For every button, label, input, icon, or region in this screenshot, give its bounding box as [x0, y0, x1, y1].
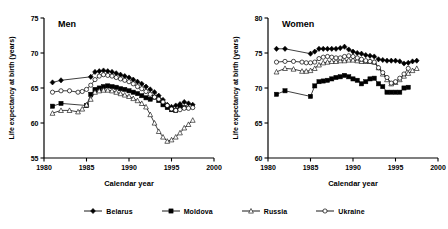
data-point [414, 58, 419, 63]
data-point [364, 80, 368, 84]
data-point [50, 80, 55, 85]
data-point [135, 79, 140, 84]
data-point [174, 108, 178, 112]
data-point [308, 51, 313, 56]
data-point [59, 101, 63, 105]
panel-title: Men [58, 19, 76, 29]
data-point [406, 66, 410, 70]
data-point [50, 104, 54, 108]
x-axis-title: Calendar year [328, 179, 378, 188]
legend-label: Russia [264, 208, 288, 215]
data-point [139, 81, 144, 86]
data-point [313, 60, 317, 64]
data-point [338, 75, 342, 79]
y-axis-title: Life expectancy at birth (years) [8, 36, 16, 139]
data-point [135, 85, 139, 89]
data-point [76, 90, 80, 94]
data-point [393, 80, 397, 84]
data-point [347, 75, 351, 79]
data-point [393, 90, 397, 94]
data-point [169, 137, 174, 142]
y-axis-title: Life expectancy at birth (years) [232, 36, 240, 139]
y-axis-tick-label: 65 [31, 85, 39, 92]
plot-area: 606570758019801985199019952000Calendar y… [232, 15, 446, 188]
data-point [274, 60, 278, 64]
data-point [144, 96, 148, 100]
data-point [402, 72, 406, 76]
y-axis-tick-label: 60 [255, 155, 263, 162]
legend-symbol [169, 209, 173, 213]
data-point [389, 90, 393, 94]
data-point [157, 97, 161, 101]
y-axis-tick-label: 70 [255, 85, 263, 92]
data-point [363, 53, 368, 58]
data-point [283, 46, 288, 51]
legend-marker-open-circle [315, 206, 335, 216]
series-moldova [50, 84, 186, 113]
data-point [402, 86, 406, 90]
data-point [330, 55, 334, 59]
chart-panel-women: 606570758019801985199019952000Calendar y… [224, 0, 448, 200]
data-point [355, 78, 359, 82]
data-point [127, 89, 131, 93]
data-point [161, 100, 165, 104]
data-point [135, 92, 139, 96]
data-point [325, 54, 329, 58]
data-point [274, 69, 279, 74]
data-point [152, 121, 157, 126]
data-point [186, 106, 190, 110]
legend-label: Belarus [106, 208, 132, 215]
data-point [321, 55, 325, 59]
x-axis-tick-label: 1980 [36, 164, 52, 171]
x-axis-tick-label: 1995 [388, 164, 404, 171]
data-point [283, 89, 287, 93]
data-point [67, 89, 71, 93]
legend-marker-open-triangle [241, 206, 261, 216]
life-expectancy-figure: 556065707519801985199019952000Calendar y… [0, 0, 448, 229]
data-point [300, 60, 304, 64]
data-point [355, 56, 359, 60]
data-point [89, 92, 93, 96]
data-point [364, 59, 368, 63]
x-axis-tick-label: 1990 [345, 164, 361, 171]
data-point [131, 82, 135, 86]
data-point [50, 90, 54, 94]
data-point [338, 46, 343, 51]
data-point [110, 74, 114, 78]
data-point [118, 77, 122, 81]
data-point [381, 85, 385, 89]
data-point [342, 54, 346, 58]
legend-item-moldova: Moldova [161, 206, 213, 216]
x-axis-tick-label: 1990 [121, 164, 137, 171]
chart-panel-men: 556065707519801985199019952000Calendar y… [0, 0, 224, 200]
data-point [393, 58, 398, 63]
data-point [406, 85, 410, 89]
data-point [140, 94, 144, 98]
legend-marker-filled-diamond [83, 206, 103, 216]
data-point [406, 71, 411, 76]
y-axis-tick-label: 60 [31, 120, 39, 127]
data-point [148, 87, 153, 92]
data-point [182, 99, 187, 104]
y-axis-tick-label: 80 [255, 15, 263, 22]
panel-title: Women [282, 19, 314, 29]
data-point [372, 76, 376, 80]
data-point [101, 73, 105, 77]
x-axis-tick-label: 2000 [430, 164, 446, 171]
data-point [359, 51, 364, 56]
data-point [148, 112, 153, 117]
data-point [93, 78, 97, 82]
data-point [376, 57, 381, 62]
data-point [347, 54, 351, 58]
data-point [139, 101, 144, 106]
data-point [118, 87, 122, 91]
data-point [308, 61, 312, 65]
data-point [313, 84, 317, 88]
data-point [312, 49, 317, 54]
legend-item-russia: Russia [241, 206, 288, 216]
data-point [84, 87, 88, 91]
series-line-russia [53, 90, 193, 141]
data-point [152, 95, 156, 99]
y-axis-tick-label: 55 [31, 155, 39, 162]
data-point [368, 59, 372, 63]
